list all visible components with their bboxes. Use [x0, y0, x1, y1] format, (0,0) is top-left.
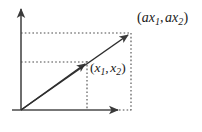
scaled-label-close-paren: ) [183, 10, 188, 25]
base-point-label: (x1,x2) [90, 61, 126, 76]
axes [12, 9, 118, 110]
scaled-label-term1-base: ax [142, 10, 155, 25]
vector-scaling-figure: (ax1,ax2) (x1,x2) [0, 0, 202, 132]
base-label-close-paren: ) [121, 60, 126, 75]
base-label-comma: , [105, 60, 108, 75]
scaled-label-term2-base: ax [165, 10, 178, 25]
scaled-point-label: (ax1,ax2) [137, 11, 188, 27]
scaled-label-comma: , [160, 10, 164, 25]
